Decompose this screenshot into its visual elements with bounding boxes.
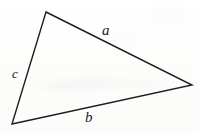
triangle-figure: a b c <box>0 0 199 134</box>
side-label-a: a <box>102 23 110 38</box>
side-label-c: c <box>12 67 18 80</box>
side-label-b: b <box>85 110 93 125</box>
triangle-shape <box>0 0 199 134</box>
